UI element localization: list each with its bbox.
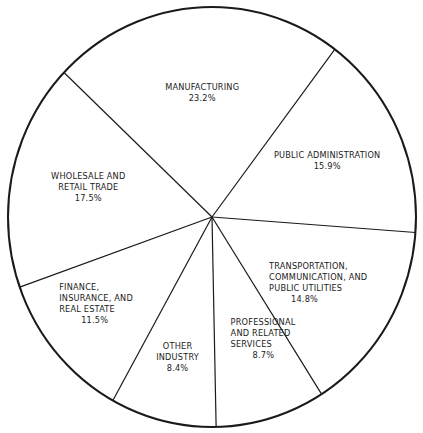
slice-value-label: 15.9% — [314, 161, 341, 171]
pie-chart: PUBLIC ADMINISTRATION15.9%TRANSPORTATION… — [0, 0, 423, 433]
slice-name-line: FINANCE, — [59, 282, 99, 292]
slice-name-line: REAL ESTATE — [59, 304, 115, 314]
slice-value-label: 14.8% — [291, 294, 318, 304]
slice-name-line: COMMUNICATION, AND — [269, 272, 367, 282]
slice-name-line: SERVICES — [231, 339, 272, 349]
slice-value-label: 8.4% — [167, 363, 189, 373]
slice-value-label: 11.5% — [81, 315, 108, 325]
slice-name-line: RETAIL TRADE — [58, 182, 118, 192]
slice-name-line: TRANSPORTATION, — [268, 261, 348, 271]
slice-name-line: PROFESSIONAL — [231, 317, 296, 327]
slice-name-line: OTHER — [163, 341, 193, 351]
slice-name-line: PUBLIC ADMINISTRATION — [274, 150, 380, 160]
slice-name-line: INSURANCE, AND — [59, 293, 133, 303]
slice-name-line: PUBLIC UTILITIES — [269, 283, 342, 293]
slice-name-line: MANUFACTURING — [165, 82, 239, 92]
slice-value-label: 17.5% — [75, 193, 102, 203]
slice-name-line: AND RELATED — [231, 328, 291, 338]
slice-value-label: 8.7% — [253, 350, 275, 360]
slice-name-line: INDUSTRY — [156, 352, 200, 362]
slice-name-line: WHOLESALE AND — [51, 171, 125, 181]
slice-value-label: 23.2% — [189, 93, 216, 103]
